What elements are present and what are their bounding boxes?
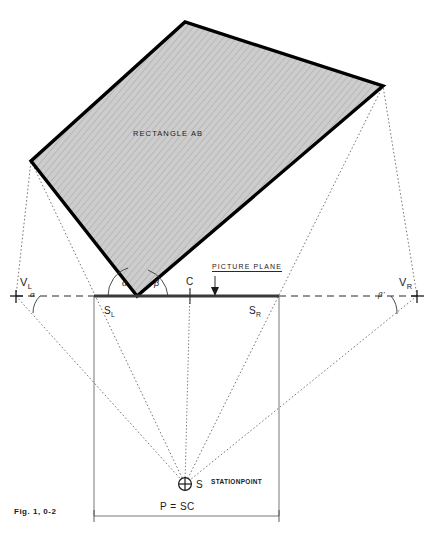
angle-beta-plane-label: β — [154, 279, 160, 288]
picture-plane-label: PICTURE PLANE — [212, 263, 282, 272]
angle-alpha-vl-label: α — [30, 291, 35, 299]
figure-caption: Fig. 1, 0-2 — [14, 508, 56, 516]
vanishing-point-right-label: VR — [399, 277, 412, 291]
figure-canvas: RECTANGLE AB PICTURE PLANE VL VR α β α β… — [0, 0, 431, 541]
distance-label: P = SC — [160, 502, 195, 512]
station-point-label: STATIONPOINT — [211, 479, 262, 486]
angle-beta-prime-vr-label: β' — [378, 291, 385, 299]
center-axis-line — [185, 289, 190, 484]
vanishing-point-left-label: VL — [20, 277, 32, 291]
sr-subscript: R — [256, 311, 261, 318]
station-point-letter: S — [196, 480, 203, 490]
rectangle-ab-shape — [31, 22, 383, 296]
angle-alpha-plane-label: α — [122, 279, 128, 288]
center-point-label: C — [186, 277, 194, 287]
sight-line-vr-upper — [383, 86, 417, 296]
trace-point-left-label: SL — [104, 306, 115, 319]
vr-letter: V — [399, 276, 407, 288]
angle-arc-beta-vr — [391, 296, 397, 314]
sight-line-vr-to-s — [185, 296, 417, 484]
rectangle-label: RECTANGLE AB — [133, 130, 203, 138]
vl-letter: V — [20, 276, 28, 288]
stationpoint-symbol — [179, 478, 192, 491]
sight-line-vl-to-s — [16, 296, 185, 484]
vr-subscript: R — [407, 282, 412, 291]
trace-point-right-label: SR — [249, 306, 261, 319]
sl-subscript: L — [111, 311, 115, 318]
